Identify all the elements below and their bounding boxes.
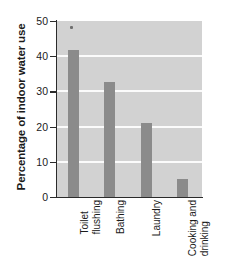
x-axis-line	[56, 197, 203, 198]
y-tick-mark	[50, 91, 56, 92]
y-tick-label: 40	[22, 51, 48, 61]
y-tick-label: 50	[22, 16, 48, 26]
y-tick-mark	[50, 127, 56, 128]
y-axis-title: Percentage of indoor water use	[15, 12, 27, 202]
y-axis-line	[56, 20, 57, 198]
y-tick-mark	[50, 197, 56, 198]
bar-chart-figure: Percentage of indoor water use 010203040…	[0, 0, 228, 273]
bar	[68, 50, 79, 197]
x-tick-label: Bathing	[115, 200, 127, 234]
x-tick-label: Toiletflushing	[79, 200, 102, 234]
bar	[177, 179, 188, 197]
plot-area	[57, 21, 202, 197]
x-axis-labels: ToiletflushingBathingLaundryCooking andd…	[0, 200, 228, 273]
x-tick-label: Cooking anddrinking	[187, 200, 210, 256]
y-tick-label: 20	[22, 122, 48, 132]
print-speck-artifact	[70, 26, 73, 29]
bar	[141, 123, 152, 197]
bar	[104, 82, 115, 197]
y-tick-label: 30	[22, 86, 48, 96]
y-tick-label: 10	[22, 157, 48, 167]
y-tick-mark	[50, 56, 56, 57]
x-tick-label: Laundry	[151, 200, 163, 236]
y-tick-mark	[50, 21, 56, 22]
y-tick-mark	[50, 162, 56, 163]
